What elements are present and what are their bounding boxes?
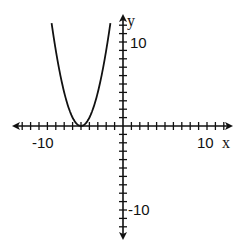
parabola-curve: [52, 23, 111, 126]
x-min-label: -10: [32, 134, 54, 151]
x-max-label: 10: [197, 134, 214, 151]
parabola-graph: -10 10 x y 10 -10: [0, 0, 242, 251]
y-max-label: 10: [130, 34, 147, 51]
y-min-label: -10: [128, 201, 150, 218]
x-axis-label: x: [222, 134, 230, 151]
y-axis-label: y: [127, 12, 135, 30]
